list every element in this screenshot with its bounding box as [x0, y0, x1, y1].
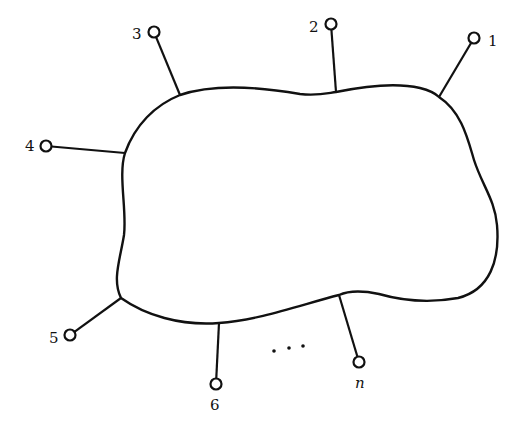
terminal-2: 2: [309, 18, 337, 92]
terminals-layer: 123456n: [25, 18, 498, 414]
terminal-node-circle: [41, 141, 52, 152]
n-terminal-network-diagram: 123456n: [0, 0, 520, 423]
terminal-3: 3: [132, 25, 180, 95]
terminal-label: 4: [25, 137, 35, 155]
terminal-5: 5: [49, 298, 121, 347]
lead-wire: [439, 43, 471, 97]
terminal-label: 2: [309, 18, 319, 36]
lead-wire: [216, 323, 219, 379]
lead-wire: [74, 298, 121, 332]
terminal-6: 6: [210, 323, 222, 414]
terminal-1: 1: [439, 32, 498, 97]
terminal-label: n: [355, 374, 365, 392]
lead-wire: [339, 295, 357, 357]
lead-wire: [156, 37, 180, 95]
network-boundary: [117, 85, 498, 323]
terminal-node-circle: [149, 27, 160, 38]
terminal-node-circle: [211, 379, 222, 390]
terminal-label: 5: [49, 329, 59, 347]
ellipsis-dot: [301, 344, 305, 348]
ellipsis-dot: [287, 346, 291, 350]
ellipsis-dots: [272, 344, 305, 353]
terminal-node-circle: [326, 19, 337, 30]
terminal-n: n: [339, 295, 365, 392]
terminal-node-circle: [354, 357, 365, 368]
terminal-4: 4: [25, 137, 125, 155]
lead-wire: [51, 146, 125, 153]
terminal-node-circle: [469, 33, 480, 44]
lead-wire: [331, 29, 336, 92]
terminal-node-circle: [65, 330, 76, 341]
terminal-label: 3: [132, 25, 142, 43]
terminal-label: 6: [210, 396, 220, 414]
terminal-label: 1: [488, 32, 498, 50]
ellipsis-dot: [272, 349, 276, 353]
